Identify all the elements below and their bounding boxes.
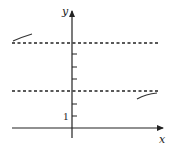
x-axis-label: x	[159, 133, 166, 146]
graph-canvas: y x 1	[0, 0, 172, 148]
left-curve-segment	[13, 34, 32, 41]
tick-label-one: 1	[63, 110, 69, 122]
right-curve-segment	[137, 93, 157, 99]
y-axis-label: y	[61, 5, 69, 18]
y-ticks	[72, 54, 77, 116]
